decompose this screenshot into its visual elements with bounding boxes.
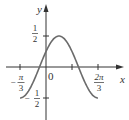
function-plot: y x 0 1 2 − 1 2 − π 3 2π 3 bbox=[0, 0, 129, 120]
y-half-den: 2 bbox=[33, 34, 38, 44]
x-axis-arrow-icon bbox=[116, 65, 124, 70]
x-axis-label: x bbox=[119, 73, 125, 85]
y-neg-half-sign: − bbox=[24, 93, 29, 103]
y-axis-label: y bbox=[36, 3, 42, 15]
x-neg-pi3-sign: − bbox=[10, 77, 15, 87]
y-neg-half-den: 2 bbox=[35, 99, 40, 109]
y-half-num: 1 bbox=[33, 23, 38, 33]
x-neg-pi3-den: 3 bbox=[19, 83, 24, 93]
y-neg-half-num: 1 bbox=[35, 88, 40, 98]
x-neg-pi3-num: π bbox=[19, 72, 24, 82]
y-axis-arrow-icon bbox=[44, 4, 49, 12]
x-2pi3-den: 3 bbox=[97, 83, 102, 93]
x-2pi3-num: 2π bbox=[94, 72, 104, 82]
origin-label: 0 bbox=[48, 70, 54, 82]
